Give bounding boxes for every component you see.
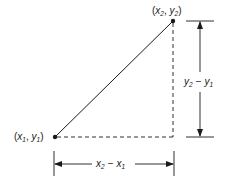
point-2-dot: [171, 19, 175, 23]
segment-line: [55, 21, 173, 137]
vertical-dimension-label: y2−y1: [183, 76, 213, 88]
point-2-label: (x2, y2): [152, 5, 182, 17]
distance-diagram: (x2, y2) (x1, y1) y2−y1 x2−x1: [0, 0, 232, 193]
horizontal-dimension-label: x2−x1: [95, 158, 125, 170]
point-1-dot: [53, 135, 57, 139]
point-1-label: (x1, y1): [14, 131, 44, 143]
